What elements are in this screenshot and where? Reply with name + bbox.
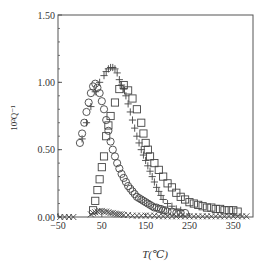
x-axis-label: T(℃) — [142, 248, 168, 261]
series-square — [89, 81, 241, 215]
x-tick-label: 50 — [97, 220, 107, 231]
chart: 0.000.501.001.50 −5050150250350 T(℃) 10²… — [0, 0, 266, 265]
y-axis-label: 10²Q⁻¹ — [9, 105, 19, 131]
series-circle — [76, 80, 188, 216]
plot-frame — [58, 15, 253, 217]
y-tick-label: 1.50 — [38, 10, 56, 21]
x-tick-label: −50 — [50, 220, 66, 231]
x-tick-label: 150 — [138, 220, 153, 231]
y-tick-label: 0.50 — [38, 144, 56, 155]
data-points — [57, 64, 249, 220]
y-tick-label: 1.00 — [38, 77, 56, 88]
x-tick-label: 350 — [226, 220, 241, 231]
x-tick-label: 250 — [182, 220, 197, 231]
